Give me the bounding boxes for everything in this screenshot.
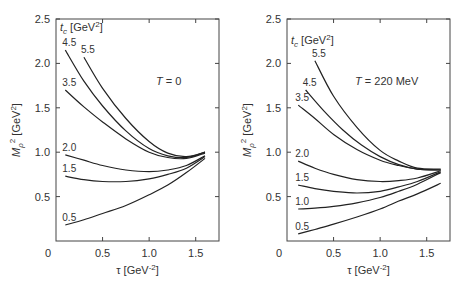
- curve-label-tc-1-0: 1.0: [295, 196, 309, 207]
- curve-tc-5-5: [84, 57, 205, 156]
- legend-title: tc [GeV2]: [291, 33, 334, 49]
- curve-label-tc-1-5: 1.5: [295, 172, 309, 183]
- x-tick-label: 0.5: [326, 247, 341, 259]
- x-tick-label: 1.5: [188, 247, 203, 259]
- curve-label-tc-5-5: 5.5: [81, 44, 95, 55]
- y-axis-label: Mρ2 [GeV2]: [239, 103, 256, 157]
- legend-title: tc [GeV2]: [60, 20, 103, 36]
- curve-label-tc-1-5: 1.5: [62, 163, 76, 174]
- figure: 0.51.01.52.02.500.51.01.5τ [GeV-2]Mρ2 [G…: [0, 0, 463, 285]
- y-tick-label: 1.5: [35, 102, 50, 114]
- y-tick-label: 1.0: [35, 146, 50, 158]
- y-tick-label: 2.5: [35, 13, 50, 25]
- chart-panel-2: 0.51.01.52.02.500.51.01.5τ [GeV-2]Mρ2 [G…: [239, 13, 450, 276]
- temperature-annotation: T = 0: [156, 75, 181, 87]
- curve-tc-3-5: [298, 105, 441, 170]
- x-tick-label: 0: [45, 247, 51, 259]
- curve-label-tc-0-5: 0.5: [295, 221, 309, 232]
- curve-label-tc-4-5: 4.5: [303, 77, 317, 88]
- curve-label-tc-3-5: 3.5: [295, 92, 309, 103]
- x-tick-label: 1.5: [419, 247, 434, 259]
- curve-label-tc-0-5: 0.5: [62, 212, 76, 223]
- curve-tc-0-5: [65, 158, 205, 225]
- y-tick-label: 2.5: [266, 13, 281, 25]
- curve-label-tc-5-5: 5.5: [312, 48, 326, 59]
- x-axis-label: τ [GeV-2]: [116, 263, 159, 276]
- curve-label-tc-2-0: 2.0: [295, 148, 309, 159]
- y-tick-label: 1.0: [266, 146, 281, 158]
- x-tick-label: 1.0: [372, 247, 387, 259]
- x-axis-label: τ [GeV-2]: [347, 263, 390, 276]
- y-tick-label: 0.5: [266, 191, 281, 203]
- y-tick-label: 2.0: [35, 57, 50, 69]
- curve-tc-4-5: [65, 50, 205, 158]
- y-tick-label: 2.0: [266, 57, 281, 69]
- y-tick-label: 0.5: [35, 191, 50, 203]
- curve-tc-2-0: [298, 161, 441, 181]
- curve-tc-1-5: [298, 172, 441, 193]
- x-tick-label: 1.0: [141, 247, 156, 259]
- temperature-annotation: T = 220 MeV: [355, 75, 419, 87]
- curves: 5.54.53.52.01.50.5: [62, 37, 205, 225]
- curve-label-tc-4-5: 4.5: [62, 37, 76, 48]
- chart-canvas: 0.51.01.52.02.500.51.01.5τ [GeV-2]Mρ2 [G…: [0, 0, 463, 285]
- chart-panel-1: 0.51.01.52.02.500.51.01.5τ [GeV-2]Mρ2 [G…: [8, 13, 219, 276]
- curve-label-tc-3-5: 3.5: [62, 77, 76, 88]
- x-tick-label: 0: [276, 247, 282, 259]
- curve-tc-3-5: [65, 90, 205, 159]
- x-tick-label: 0.5: [95, 247, 110, 259]
- y-axis-label: Mρ2 [GeV2]: [8, 103, 25, 157]
- y-tick-label: 1.5: [266, 102, 281, 114]
- curve-tc-0-5: [298, 183, 441, 234]
- curve-label-tc-2-0: 2.0: [62, 142, 76, 153]
